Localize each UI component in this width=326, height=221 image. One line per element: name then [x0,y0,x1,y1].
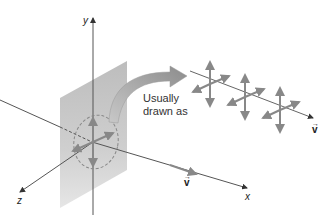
vector-arrow-icon: → [184,173,191,180]
vector-arrow-icon: → [312,120,319,127]
z-axis-label: z [17,196,22,206]
caption-line-1: Usually [143,92,188,105]
caption: Usually drawn as [143,92,188,118]
y-axis-label: y [83,16,88,26]
x-axis-back [0,100,60,127]
velocity-label-main: → v [184,178,190,188]
propagation-vector [170,165,196,174]
caption-line-2: drawn as [143,105,188,118]
velocity-label-inset: → v [312,125,318,135]
inset-arrow-star-3 [263,88,299,132]
x-axis-label: x [245,192,250,202]
